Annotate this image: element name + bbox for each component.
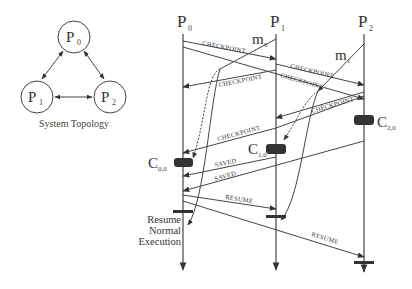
message-sub: 0: [264, 41, 268, 49]
process-label: P: [177, 12, 186, 31]
checkpoint-protocol-diagram: P 0 P 1 P 2 System Topology P 0 P 1 P 2 …: [0, 0, 412, 289]
checkpoint-c20: C 2,0: [354, 114, 396, 132]
resume-note-line: Resume: [147, 214, 181, 225]
msg-label: RESUME: [225, 193, 254, 204]
resume-note-line: Normal: [149, 225, 181, 236]
process-sub: 1: [281, 24, 285, 33]
msg-p0-p2-resume: [183, 201, 364, 257]
node-sub: 2: [112, 98, 116, 107]
resume-note: Resume Normal Execution: [138, 214, 181, 247]
checkpoint-label: C: [148, 155, 158, 171]
checkpoint-sub: 1,0: [258, 151, 267, 159]
resume-bar-p1: [266, 215, 286, 218]
process-sub: 0: [188, 24, 192, 33]
msg-label: RESUME: [311, 230, 340, 245]
topology-caption: System Topology: [39, 118, 109, 129]
message-label: m: [252, 31, 264, 47]
node-label: P: [28, 89, 36, 105]
checkpoint-marker: [174, 158, 193, 167]
msg-label: CHECKPOINT: [202, 39, 247, 54]
node-label: P: [66, 29, 74, 45]
msg-label: CHECKPOINT: [216, 124, 260, 142]
topology-link-p0-p1: [42, 51, 63, 79]
checkpoint-label: C: [377, 114, 387, 130]
checkpoint-marker: [354, 115, 374, 125]
resume-bar-p0: [173, 210, 193, 213]
process-sub: 2: [369, 24, 373, 33]
message-label: m: [335, 47, 347, 63]
checkpoint-marker: [266, 144, 286, 154]
checkpoint-c00: C 0,0: [148, 155, 193, 173]
process-header-p2: P 2: [358, 12, 373, 33]
msg-p2-p1: [276, 96, 364, 128]
msg-label: CHECKPOINT: [218, 73, 263, 88]
resume-note-line: Execution: [138, 236, 181, 247]
message-sub: 1: [347, 57, 351, 65]
msg-label: SAVED: [214, 157, 237, 168]
process-header-p0: P 0: [177, 12, 192, 33]
process-header-p1: P 1: [270, 12, 285, 33]
node-label: P: [101, 89, 109, 105]
process-label: P: [270, 12, 279, 31]
topology-node-p0: P 0: [58, 21, 90, 53]
checkpoint-label: C: [248, 141, 258, 157]
checkpoint-sub: 2,0: [387, 124, 396, 132]
topology-node-p1: P 1: [21, 81, 53, 113]
msg-label: CHECKPOINT: [310, 95, 354, 114]
process-label: P: [358, 12, 367, 31]
checkpoint-sub: 0,0: [158, 165, 167, 173]
resume-bar-p2: [354, 261, 374, 264]
node-sub: 1: [39, 98, 43, 107]
node-sub: 0: [77, 38, 81, 47]
msg-label: SAVED: [213, 169, 236, 182]
checkpoint-c10: C 1,0: [248, 141, 286, 159]
topology-link-p0-p2: [84, 51, 104, 79]
system-topology: P 0 P 1 P 2 System Topology: [21, 21, 126, 129]
m1-replay-path: [284, 91, 318, 140]
topology-node-p2: P 2: [94, 81, 126, 113]
